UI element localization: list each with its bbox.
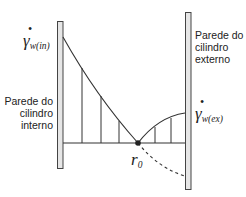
inner-wall-label-line-1: Parede do: [0, 95, 53, 107]
dashed-extrapolation-curve: [138, 143, 185, 176]
inner-cylinder-wall: [58, 22, 64, 169]
r0-point-marker: [135, 140, 141, 146]
outer-wall-label-line-1: Parede do: [195, 29, 246, 41]
gamma-in-subscript: w(in): [30, 41, 50, 51]
outer-wall-label-line-2: cilindro: [195, 41, 246, 53]
shear-rate-profile-diagram: • γw(in) Parede do cilindro interno Pare…: [0, 0, 246, 197]
gamma-in-dot: •: [28, 22, 32, 37]
gamma-ex-subscript: w(ex): [202, 114, 223, 124]
right-shear-profile-curve: [138, 113, 185, 143]
outer-cylinder-wall: [186, 13, 192, 190]
r0-symbol: r: [131, 150, 138, 169]
r0-subscript: 0: [138, 160, 143, 170]
inner-wall-label: Parede do cilindro interno: [0, 95, 53, 131]
outer-wall-label-line-3: externo: [195, 53, 246, 65]
inner-wall-label-line-3: interno: [0, 119, 53, 131]
gamma-ex-dot: •: [200, 95, 204, 110]
inner-wall-label-line-2: cilindro: [0, 107, 53, 119]
gamma-in-label: • γw(in): [23, 31, 50, 51]
outer-wall-label: Parede do cilindro externo: [195, 29, 246, 65]
r0-label: r0: [131, 150, 142, 170]
gamma-ex-label: • γw(ex): [195, 104, 223, 124]
